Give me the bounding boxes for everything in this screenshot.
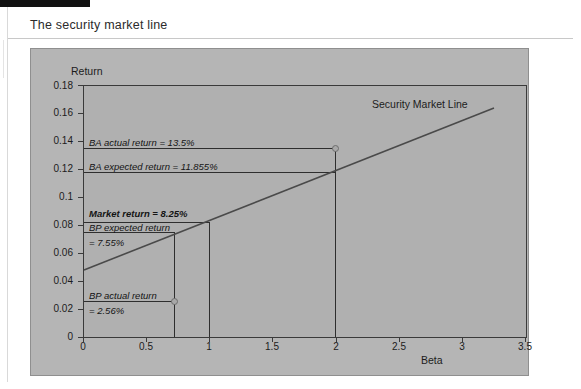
y-tick-label-0.08: 0.08 — [39, 219, 73, 230]
x-tick-label-1.5: 1.5 — [257, 341, 287, 352]
x-tick-label-2.5: 2.5 — [384, 341, 414, 352]
page-edge-rule — [7, 7, 8, 382]
plot-area: BA actual return = 13.5% BA expected ret… — [83, 85, 527, 338]
annotation-security-market-line: Security Market Line — [372, 98, 468, 110]
figure-caption: The security market line — [30, 18, 167, 32]
x-tick-label-3.5: 3.5 — [510, 341, 540, 352]
annotation-ba-actual: BA actual return = 13.5% — [89, 137, 195, 149]
caption-divider — [8, 38, 573, 39]
x-axis-title: Beta — [421, 354, 443, 366]
y-tick-label-0.1: 0.1 — [39, 191, 73, 202]
y-axis-title: Return — [71, 65, 103, 77]
security-market-line-path — [84, 108, 494, 270]
y-tick-label-0.04: 0.04 — [39, 275, 73, 286]
y-tick-label-0.02: 0.02 — [39, 303, 73, 314]
annotation-bp-expected-line1: BP expected return — [89, 222, 170, 234]
y-tick-label-0.18: 0.18 — [39, 80, 73, 91]
y-tick-label-0.16: 0.16 — [39, 107, 73, 118]
x-tick-label-3: 3 — [447, 341, 477, 352]
x-tick-label-0.5: 0.5 — [131, 341, 161, 352]
y-tick-label-0.06: 0.06 — [39, 247, 73, 258]
figure-caption-bar: The security market line — [8, 7, 573, 38]
annotation-bp-actual-line1: BP actual return — [89, 290, 157, 302]
annotation-market-return: Market return = 8.25% — [89, 208, 187, 220]
data-point-bp-actual — [171, 298, 178, 305]
annotation-bp-expected-line2: = 7.55% — [89, 237, 124, 249]
x-tick-label-1: 1 — [194, 341, 224, 352]
data-point-ba-actual — [332, 145, 339, 152]
y-tick-label-0.12: 0.12 — [39, 163, 73, 174]
annotation-bp-actual-line2: = 2.56% — [89, 305, 124, 317]
y-tick-label-0.14: 0.14 — [39, 135, 73, 146]
figure-root: The security market line Return Beta 0.1… — [0, 0, 581, 389]
page-corner-marker — [0, 0, 90, 7]
x-tick-label-2: 2 — [321, 341, 351, 352]
chart-panel: Return Beta 0.18 0.16 0.14 0.12 0.1 0.08… — [30, 48, 529, 376]
page-edge-rule-secondary — [3, 40, 4, 78]
annotation-ba-expected: BA expected return = 11.855% — [89, 161, 218, 173]
x-tick-label-0: 0 — [68, 341, 98, 352]
